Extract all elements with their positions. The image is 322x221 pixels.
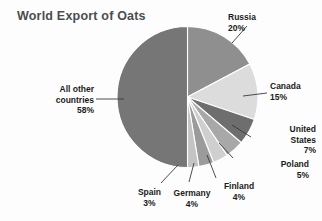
slice-label-poland-value: 5% <box>281 170 309 181</box>
slice-label-all-other-line1: All other <box>60 84 94 94</box>
slice-label-united-states-line1: United <box>290 124 316 134</box>
leader-line-spain <box>161 165 178 183</box>
slice-label-canada-name: Canada <box>270 81 301 91</box>
slice-label-finland: Finland 4% <box>216 181 262 202</box>
slice-label-all-other-value: 58% <box>28 105 94 116</box>
slice-label-poland-name: Poland <box>281 159 309 169</box>
slice-label-all-other-line2: countries <box>28 95 94 106</box>
slice-label-russia: Russia 20% <box>228 12 256 33</box>
slice-label-united-states-line2: States <box>290 135 316 146</box>
slice-label-spain-name: Spain <box>138 187 161 197</box>
slice-label-germany-value: 4% <box>164 199 220 210</box>
slice-label-russia-name: Russia <box>228 12 256 22</box>
slice-label-germany-name: Germany <box>174 188 211 198</box>
slice-label-canada: Canada 15% <box>270 81 301 102</box>
slice-label-poland: Poland 5% <box>281 159 309 180</box>
slice-label-finland-value: 4% <box>216 192 262 203</box>
slice-label-spain-value: 3% <box>131 198 168 209</box>
pie-slice-all-other-countries <box>117 27 188 168</box>
slice-label-russia-value: 20% <box>228 23 256 34</box>
pie-chart-figure: World Export of Oats Russia 20% Canada 1… <box>0 0 322 221</box>
pie-slice-group <box>117 27 258 168</box>
slice-label-all-other-countries: All other countries 58% <box>28 84 94 116</box>
slice-label-germany: Germany 4% <box>164 188 220 209</box>
slice-label-united-states: United States 7% <box>290 124 316 156</box>
slice-label-spain: Spain 3% <box>131 187 168 208</box>
slice-label-finland-name: Finland <box>224 181 254 191</box>
slice-label-canada-value: 15% <box>270 92 301 103</box>
slice-label-united-states-value: 7% <box>290 145 316 156</box>
